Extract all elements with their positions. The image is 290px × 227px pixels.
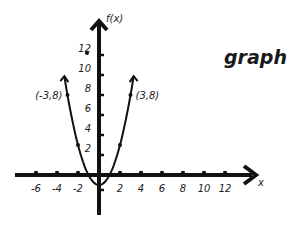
x-tick — [181, 171, 185, 175]
x-tick-label: 2 — [117, 183, 123, 194]
function-graph: xf(x)-6-4-22468101224681012(-3,8)(3,8) g… — [0, 0, 290, 227]
y-tick-label: 4 — [85, 123, 91, 134]
data-point — [66, 93, 70, 97]
data-point — [118, 143, 122, 147]
x-tick — [76, 171, 80, 175]
data-point — [76, 143, 80, 147]
x-tick-label: -2 — [73, 183, 83, 194]
x-tick — [118, 171, 122, 175]
x-tick — [202, 171, 206, 175]
chart-title: graph — [224, 46, 287, 68]
tick-marks — [34, 55, 227, 190]
y-tick-label: 10 — [78, 63, 91, 74]
labels: xf(x)-6-4-22468101224681012(-3,8)(3,8) — [31, 13, 264, 194]
x-tick-label: 4 — [138, 183, 144, 194]
dot-marker — [85, 51, 89, 55]
x-tick — [139, 171, 143, 175]
point-label: (3,8) — [136, 90, 160, 101]
x-tick-label: -6 — [31, 183, 41, 194]
y-axis-label: f(x) — [106, 13, 123, 24]
x-tick-label: 8 — [180, 183, 186, 194]
x-tick — [55, 171, 59, 175]
y-tick-label: 2 — [85, 143, 91, 154]
x-axis-label: x — [257, 177, 264, 188]
x-tick-label: -4 — [52, 183, 62, 194]
data-point — [129, 93, 133, 97]
y-tick-label: 6 — [85, 103, 91, 114]
y-tick-label: 8 — [85, 83, 91, 94]
point-label: (-3,8) — [35, 90, 62, 101]
y-tick-label: 12 — [78, 43, 91, 54]
x-tick-label: 10 — [198, 183, 211, 194]
x-tick — [160, 171, 164, 175]
x-tick-label: 12 — [219, 183, 232, 194]
x-tick — [34, 171, 38, 175]
x-tick-label: 6 — [159, 183, 165, 194]
x-tick — [223, 171, 227, 175]
